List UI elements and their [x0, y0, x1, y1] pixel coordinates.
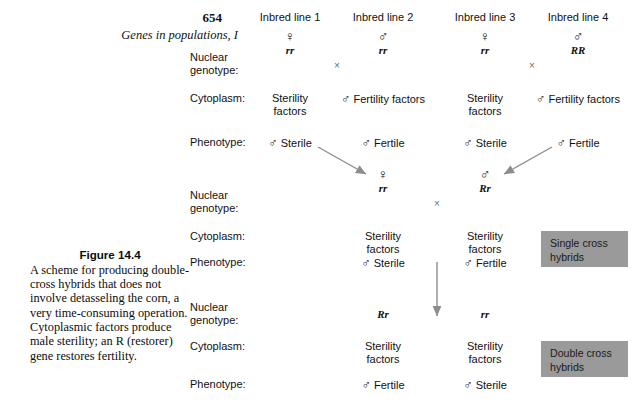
column-heading-line-4: Inbred line 4 [523, 11, 633, 23]
phenotype-double-cross-1: ♂ Fertile [328, 378, 438, 393]
row-label-nuclear-genotype-parents: Nuclear genotype: [190, 51, 238, 78]
figure-caption: Figure 14.4 A scheme for producing doubl… [30, 248, 190, 363]
running-title: Genes in populations, I [0, 28, 238, 43]
row-label-nuclear-genotype-double: Nuclear genotype: [190, 301, 238, 328]
male-symbol: ♂ [463, 378, 472, 392]
phenotype-line-2: ♂ Fertile [328, 136, 438, 151]
phenotype-double-cross-2: ♂ Sterile [430, 378, 540, 393]
cross-symbol-parents-left: × [327, 60, 347, 71]
phenotype-text: Fertile [569, 137, 600, 149]
allele-label: rr [328, 44, 438, 57]
male-symbol: ♂ [362, 136, 371, 150]
male-symbol: ♂ [463, 136, 472, 150]
row-label-nuclear-genotype-single: Nuclear genotype: [190, 189, 238, 216]
page-number: 654 [0, 10, 222, 26]
genotype-single-cross-female: ♀ rr [328, 167, 438, 195]
phenotype-text: Sterile [476, 137, 507, 149]
phenotype-single-cross-2: ♂ Fertile [430, 256, 540, 271]
male-symbol: ♂ [361, 256, 370, 270]
phenotype-single-cross-1: ♂ Sterile [328, 256, 438, 271]
cytoplasm-text: Fertility factors [548, 93, 620, 105]
genotype-double-cross-1: Rr [328, 308, 438, 320]
male-symbol: ♂ [341, 92, 350, 106]
male-symbol: ♂ [464, 256, 473, 270]
phenotype-text: Sterile [281, 137, 312, 149]
cross-symbol-parents-right: × [522, 60, 542, 71]
allele-label: RR [523, 44, 633, 57]
genotype-single-cross-male: ♂ Rr [430, 167, 540, 195]
genotype-line-2: ♂ rr [328, 29, 438, 57]
row-label-phenotype-single: Phenotype: [190, 256, 246, 269]
male-symbol: ♂ [362, 378, 371, 392]
row-label-cytoplasm-double: Cytoplasm: [190, 340, 245, 353]
genotype-line-4: ♂ RR [523, 29, 633, 57]
male-symbol: ♂ [328, 29, 438, 44]
phenotype-text: Fertile [374, 379, 405, 391]
cytoplasm-text: Fertility factors [353, 93, 425, 105]
cytoplasm-single-cross-1: Sterility factors [328, 230, 438, 257]
allele-label: rr [328, 182, 438, 195]
phenotype-text: Fertile [374, 137, 405, 149]
female-symbol: ♀ [328, 167, 438, 182]
tag-single-cross-hybrids: Single cross hybrids [541, 231, 628, 267]
row-label-cytoplasm-single: Cytoplasm: [190, 230, 245, 243]
male-symbol: ♂ [268, 136, 277, 150]
tag-double-cross-hybrids: Double cross hybrids [541, 341, 628, 377]
cytoplasm-double-cross-2: Sterility factors [430, 340, 540, 367]
cytoplasm-double-cross-1: Sterility factors [328, 340, 438, 367]
cytoplasm-line-4: ♂ Fertility factors [523, 92, 633, 107]
figure-caption-text: A scheme for producing double-cross hybr… [30, 263, 189, 363]
phenotype-line-4: ♂ Fertile [523, 136, 633, 151]
cytoplasm-line-2: ♂ Fertility factors [328, 92, 438, 107]
genotype-double-cross-2: rr [430, 308, 540, 320]
allele-label: Rr [430, 182, 540, 195]
phenotype-text: Sterile [476, 379, 507, 391]
figure-page: 654 Genes in populations, I Figure 14.4 … [0, 0, 638, 411]
male-symbol: ♂ [430, 167, 540, 182]
phenotype-text: Sterile [374, 257, 405, 269]
male-symbol: ♂ [557, 136, 566, 150]
row-label-phenotype-double: Phenotype: [190, 378, 246, 391]
figure-caption-label: Figure 14.4 [30, 248, 190, 262]
phenotype-text: Fertile [476, 257, 507, 269]
column-heading-line-2: Inbred line 2 [328, 11, 438, 23]
cytoplasm-single-cross-2: Sterility factors [430, 230, 540, 257]
male-symbol: ♂ [523, 29, 633, 44]
male-symbol: ♂ [536, 92, 545, 106]
cross-symbol-single: × [427, 198, 447, 209]
